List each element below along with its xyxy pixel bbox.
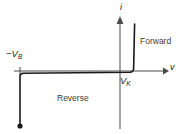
voltage-axis-label: v (170, 63, 175, 72)
knee-voltage-subscript: K (126, 80, 130, 87)
reverse-region-label: Reverse (57, 94, 89, 103)
forward-region-label: Forward (140, 37, 171, 46)
curve-canvas (0, 0, 186, 134)
voltage-axis-arrow-icon (163, 68, 169, 75)
diode-characteristic-curve (20, 24, 135, 126)
diode-iv-characteristic-figure: −VB VK i v Forward Reverse (0, 0, 186, 134)
current-axis-arrow-icon (117, 16, 124, 24)
breakdown-voltage-label: −VB (6, 49, 22, 59)
knee-voltage-label: VK (120, 76, 131, 86)
current-axis-label: i (120, 3, 122, 12)
breakdown-voltage-text: −V (6, 48, 18, 59)
breakdown-endpoint-dot (17, 123, 22, 128)
breakdown-voltage-subscript: B (18, 53, 22, 60)
